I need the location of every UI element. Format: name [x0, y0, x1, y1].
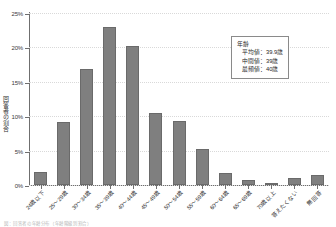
bar-30～34歳[interactable] [80, 69, 93, 185]
bar-24歳以下[interactable] [34, 172, 47, 185]
x-axis-label-無回答: 無回答 [305, 189, 323, 207]
bar-slot [167, 13, 190, 185]
y-tick-label: 20% [12, 45, 23, 51]
y-tick-label: 10% [12, 114, 23, 120]
bar-答えたくない[interactable] [288, 178, 301, 185]
bar-40～44歳[interactable] [126, 46, 139, 185]
x-label-slot: 無回答 [306, 187, 329, 227]
bar-slot [75, 13, 98, 185]
stats-title: 年齢 [237, 40, 283, 48]
y-tick-label: 15% [12, 80, 23, 86]
bar-60～64歳[interactable] [219, 173, 232, 185]
bar-35～39歳[interactable] [103, 27, 116, 185]
bar-slot [306, 13, 329, 185]
bar-slot [191, 13, 214, 185]
stats-median: 中間値：39歳 [237, 57, 283, 65]
age-distribution-bar-chart: 回答者の割合 0%5%10%15%20%25% 24歳以下25～29歳30～34… [0, 0, 336, 227]
bar-slot [98, 13, 121, 185]
bar-slot [29, 13, 52, 185]
bar-slot [52, 13, 75, 185]
x-axis-label-24歳以下: 24歳以下 [24, 189, 46, 211]
bar-55～59歳[interactable] [196, 149, 209, 185]
y-tick-label: 25% [12, 11, 23, 17]
stats-mode: 最頻値：40歳 [237, 65, 283, 73]
bar-50～54歳[interactable] [173, 121, 186, 185]
stats-mean: 平均値：39.9歳 [237, 48, 283, 56]
y-tick-label: 0% [15, 183, 23, 189]
y-tick-label: 5% [15, 149, 23, 155]
y-axis-title: 回答者の割合 [2, 96, 8, 132]
x-label-slot: 答えたくない [283, 187, 306, 227]
bar-45～49歳[interactable] [149, 113, 162, 185]
statistics-annotation-box: 年齢 平均値：39.9歳 中間値：39歳 最頻値：40歳 [231, 36, 289, 79]
bar-無回答[interactable] [311, 175, 324, 185]
bar-slot [121, 13, 144, 185]
bar-25～29歳[interactable] [57, 122, 70, 185]
bar-slot [144, 13, 167, 185]
figure-caption: 図：回答者の年齢分布（年齢階級別割合） [4, 220, 91, 226]
